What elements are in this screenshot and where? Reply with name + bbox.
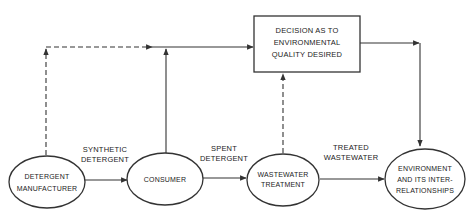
svg-text:TREATMENT: TREATMENT <box>261 181 306 188</box>
svg-text:TREATED: TREATED <box>333 143 369 152</box>
node-environment: ENVIRONMENT AND ITS INTER- RELATIONSHIPS <box>385 149 465 209</box>
dashed-feedback-manufacturer <box>46 47 152 155</box>
decision-box-line-2: ENVIRONMENTAL <box>274 38 341 47</box>
svg-text:AND ITS INTER-: AND ITS INTER- <box>397 176 453 183</box>
svg-text:MANUFACTURER: MANUFACTURER <box>17 185 78 192</box>
svg-text:SYNTHETIC: SYNTHETIC <box>83 145 128 154</box>
svg-text:DETERGENT: DETERGENT <box>25 173 70 180</box>
edge-label-treated-wastewater: TREATED WASTEWATER <box>324 143 379 162</box>
decision-box: DECISION AS TO ENVIRONMENTAL QUALITY DES… <box>254 16 360 72</box>
svg-text:ENVIRONMENT: ENVIRONMENT <box>398 165 452 172</box>
svg-text:RELATIONSHIPS: RELATIONSHIPS <box>396 187 454 194</box>
flow-diagram: DECISION AS TO ENVIRONMENTAL QUALITY DES… <box>0 0 472 219</box>
svg-text:SPENT: SPENT <box>211 144 237 153</box>
decision-box-line-3: QUALITY DESIRED <box>272 50 343 59</box>
node-detergent-manufacturer: DETERGENT MANUFACTURER <box>9 156 85 208</box>
svg-text:WASTEWATER: WASTEWATER <box>324 153 379 162</box>
node-wastewater-treatment: WASTEWATER TREATMENT <box>247 154 319 206</box>
line-decision-to-environment <box>360 43 420 146</box>
node-consumer: CONSUMER <box>127 153 203 205</box>
svg-text:DETERGENT: DETERGENT <box>200 154 248 163</box>
decision-box-line-1: DECISION AS TO <box>276 26 339 35</box>
svg-text:DETERGENT: DETERGENT <box>81 155 129 164</box>
edge-label-synthetic-detergent: SYNTHETIC DETERGENT <box>81 145 129 164</box>
svg-text:CONSUMER: CONSUMER <box>144 176 186 183</box>
svg-text:WASTEWATER: WASTEWATER <box>257 171 308 178</box>
edge-label-spent-detergent: SPENT DETERGENT <box>200 144 248 163</box>
